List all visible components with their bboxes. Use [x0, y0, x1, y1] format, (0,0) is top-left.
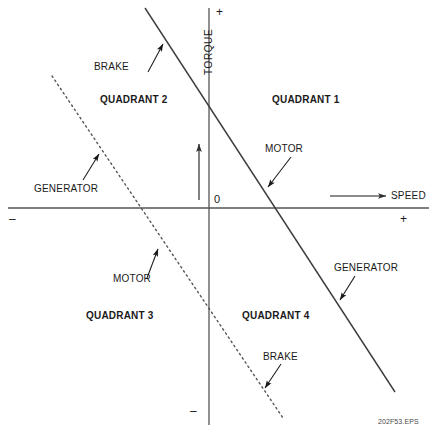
figure-code: 202F53.EPS [378, 418, 419, 425]
torque-axis-label: TORQUE [204, 29, 214, 75]
speed-negative-sign: – [9, 213, 16, 225]
motor-q3-label: MOTOR [113, 274, 151, 284]
generator-q4-leader [340, 276, 355, 300]
speed-axis-label: SPEED [391, 191, 426, 201]
generator-q4-label: GENERATOR [334, 263, 398, 273]
torque-positive-sign: + [216, 6, 223, 18]
quadrant-3-label: QUADRANT 3 [86, 311, 154, 321]
brake-q4-leader [265, 364, 281, 388]
solid-operating-line [145, 8, 395, 392]
figure-canvas: TORQUE SPEED 0 + – – + QUADRANT 2 QUADRA… [0, 0, 437, 437]
generator-q2-label: GENERATOR [34, 184, 98, 194]
brake-q2-leader [148, 44, 163, 72]
quadrant-4-label: QUADRANT 4 [242, 311, 310, 321]
brake-q2-label: BRAKE [94, 62, 129, 72]
torque-negative-sign: – [190, 405, 197, 417]
brake-q4-label: BRAKE [263, 352, 298, 362]
motor-q1-label: MOTOR [265, 144, 303, 154]
dotted-operating-line [52, 76, 283, 418]
speed-positive-sign: + [400, 213, 407, 225]
quadrant-2-label: QUADRANT 2 [100, 95, 168, 105]
quadrant-diagram [0, 0, 437, 437]
quadrant-1-label: QUADRANT 1 [272, 95, 340, 105]
generator-q2-leader [83, 154, 99, 180]
origin-label: 0 [214, 194, 220, 205]
motor-q1-leader [268, 157, 291, 187]
